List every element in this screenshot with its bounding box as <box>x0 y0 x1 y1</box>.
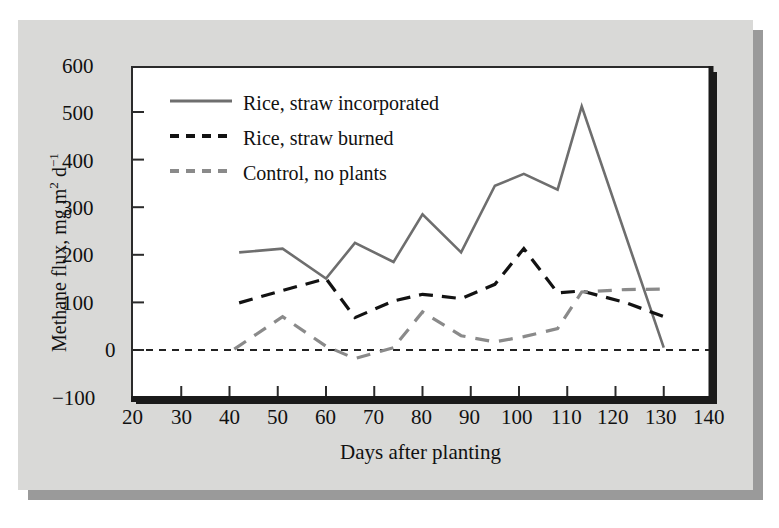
data-series-group <box>234 106 663 358</box>
chart-vector-overlay <box>0 0 779 528</box>
legend-swatch-group <box>170 101 232 171</box>
series-line-2 <box>234 289 663 359</box>
series-line-0 <box>239 106 664 347</box>
series-line-1 <box>239 249 664 318</box>
figure-page: 600 500 400 300 200 100 0 −100 20 30 40 … <box>0 0 779 528</box>
